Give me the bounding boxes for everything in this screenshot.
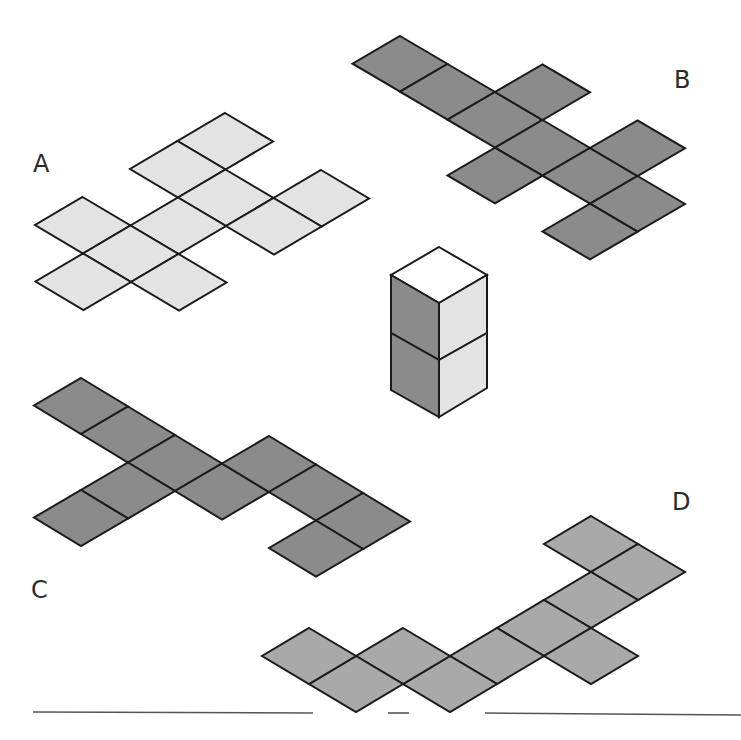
figure-svg [0, 0, 741, 740]
net-c [34, 378, 410, 577]
cuboid-shape [391, 247, 487, 417]
baseline-segments [33, 712, 741, 715]
figure-canvas: A B C D [0, 0, 741, 740]
net-b [353, 36, 686, 259]
net-label-a: A [33, 152, 49, 176]
nets-group [34, 36, 685, 712]
baseline-segment [485, 713, 741, 715]
baseline-segment [33, 712, 313, 713]
net-label-d: D [672, 490, 690, 514]
net-a [35, 113, 369, 311]
net-label-b: B [674, 68, 690, 92]
net-label-c: C [31, 578, 48, 602]
